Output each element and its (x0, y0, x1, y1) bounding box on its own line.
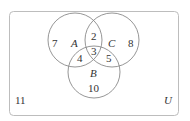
region-a-b-c: 3 (91, 45, 97, 57)
region-c-only: 8 (128, 37, 134, 49)
region-a-only: 7 (52, 37, 58, 49)
universe-frame (10, 12, 179, 116)
universe-label: U (164, 94, 173, 106)
set-label-c: C (108, 37, 116, 49)
venn-diagram: 7 A 2 C 8 3 4 5 B 10 11 U (0, 0, 190, 121)
region-a-b: 4 (77, 52, 83, 64)
set-label-a: A (70, 37, 78, 49)
region-b-only: 10 (88, 82, 100, 94)
region-outside: 11 (15, 94, 26, 106)
set-label-b: B (90, 67, 97, 79)
region-b-c: 5 (106, 52, 112, 64)
region-a-c: 2 (91, 30, 97, 42)
